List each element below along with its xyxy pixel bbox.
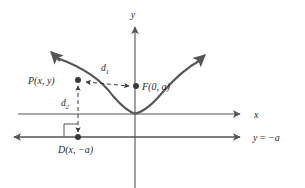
svg-text:d2: d2: [61, 98, 70, 110]
parabola-right-arrow: [196, 55, 205, 63]
directrix-label-eq: =: [257, 132, 268, 143]
point-p-label: P(x, y): [27, 75, 55, 87]
d1-subscript: 1: [106, 68, 109, 75]
d1-label: d1: [101, 63, 109, 75]
svg-text:P(x, y): P(x, y): [27, 75, 55, 87]
point-p-dot: [75, 77, 81, 83]
svg-text:y = −a: y = −a: [252, 132, 280, 143]
x-axis-label: x: [253, 109, 259, 120]
point-d-dot: [75, 134, 81, 140]
point-f-args: (0, a): [148, 81, 170, 93]
point-f-dot: [133, 83, 139, 89]
d1-segment: [86, 82, 129, 86]
svg-text:D(x, −a): D(x, −a): [57, 144, 94, 156]
directrix-label-val: −a: [268, 132, 280, 143]
y-axis-label: y: [130, 9, 136, 20]
point-d-args: (x, −a): [65, 144, 94, 156]
d2-subscript: 2: [66, 103, 70, 110]
point-d-label: D(x, −a): [57, 144, 94, 156]
parabola-left-arrow: [51, 52, 60, 61]
point-p-letter: P: [27, 75, 34, 86]
parabola-figure: y x y = −a P(x, y) F(0, a) D(x, −a): [0, 0, 305, 188]
d2-label: d2: [61, 98, 70, 110]
point-f-label: F(0, a): [141, 81, 170, 93]
point-p-args: (x, y): [34, 75, 55, 87]
svg-text:d1: d1: [101, 63, 109, 75]
directrix-label: y = −a: [252, 132, 280, 143]
svg-text:F(0, a): F(0, a): [141, 81, 170, 93]
figure-canvas: y x y = −a P(x, y) F(0, a) D(x, −a): [0, 0, 305, 188]
